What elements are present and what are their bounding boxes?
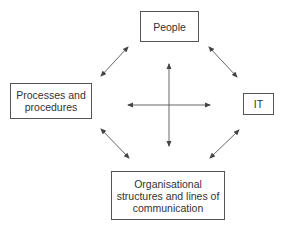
arrow-it-org: [210, 130, 239, 158]
node-org-label: Organisational structures and lines of c…: [117, 178, 220, 214]
relationship-diagram: People Processes and procedures IT Organ…: [0, 0, 285, 228]
node-it: IT: [243, 93, 274, 115]
arrow-people-processes: [101, 47, 128, 76]
arrow-processes-org: [101, 129, 129, 158]
node-people-label: People: [153, 21, 186, 33]
node-processes-and-procedures: Processes and procedures: [10, 83, 92, 119]
node-organisational-structures: Organisational structures and lines of c…: [111, 171, 225, 220]
arrow-people-it: [209, 47, 237, 77]
node-people: People: [140, 11, 199, 42]
node-processes-label: Processes and procedures: [16, 89, 85, 113]
node-it-label: IT: [254, 98, 263, 110]
